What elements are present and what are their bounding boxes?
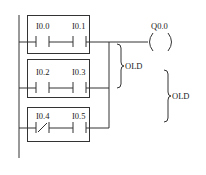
contact-label-i0-4: I0.4 — [36, 112, 49, 121]
coil-right-arc — [168, 33, 172, 51]
contact-label-i0-2: I0.2 — [36, 68, 49, 77]
rung-2 — [19, 82, 109, 93]
rung-1 — [19, 36, 148, 47]
old-label-2: OLD — [172, 92, 189, 101]
contact-label-i0-5: I0.5 — [72, 112, 85, 121]
rung-3 — [19, 122, 109, 133]
old-bracket-2 — [164, 70, 171, 122]
contact-label-i0-3: I0.3 — [72, 68, 85, 77]
old-bracket-1 — [117, 44, 124, 88]
contact-label-i0-0: I0.0 — [36, 22, 49, 31]
block-box-2 — [28, 60, 90, 98]
coil-label-q0-0: Q0.0 — [151, 22, 168, 31]
nc-slash — [38, 123, 47, 132]
old-label-1: OLD — [125, 62, 142, 71]
contact-label-i0-1: I0.1 — [72, 22, 85, 31]
ladder-diagram — [0, 0, 206, 175]
coil-left-arc — [150, 33, 154, 51]
